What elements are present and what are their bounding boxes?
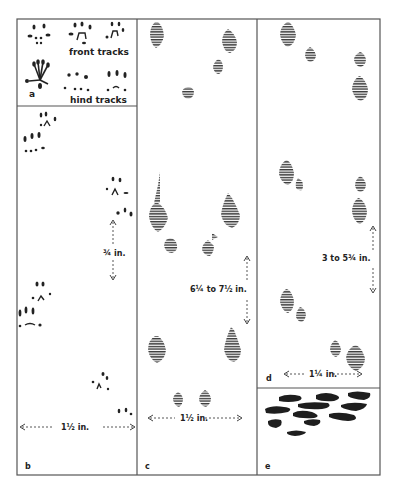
panel-c-tracks bbox=[148, 22, 241, 407]
panel-b-spacing-label: ¾ in. bbox=[103, 249, 126, 258]
panel-c-width-label: 1½ in. bbox=[180, 413, 208, 423]
panel-b-width-label: 1½ in. bbox=[61, 422, 89, 432]
panel-a-label: a bbox=[29, 89, 35, 99]
panel-b-label: b bbox=[25, 462, 31, 471]
panel-b-tracks bbox=[19, 112, 133, 416]
panel-e-label: e bbox=[265, 462, 271, 471]
panel-c-label: c bbox=[145, 462, 150, 471]
panel-a-front-tracks bbox=[28, 22, 125, 45]
front-tracks-caption: front tracks bbox=[69, 47, 129, 57]
track-plate: front tracks a hind tracks bbox=[0, 0, 397, 489]
panel-d-width-label: 1¼ in. bbox=[309, 369, 337, 379]
panel-d-tracks bbox=[279, 22, 368, 371]
panel-d-stride-label: 3 to 5¾ in. bbox=[322, 254, 371, 263]
panel-e-scat bbox=[265, 392, 370, 437]
panel-c-stride-label: 6¼ to 7½ in. bbox=[190, 284, 247, 294]
panel-a-hind-tracks bbox=[25, 59, 127, 91]
panel-d-label: d bbox=[266, 374, 272, 383]
hind-tracks-caption: hind tracks bbox=[70, 95, 127, 105]
